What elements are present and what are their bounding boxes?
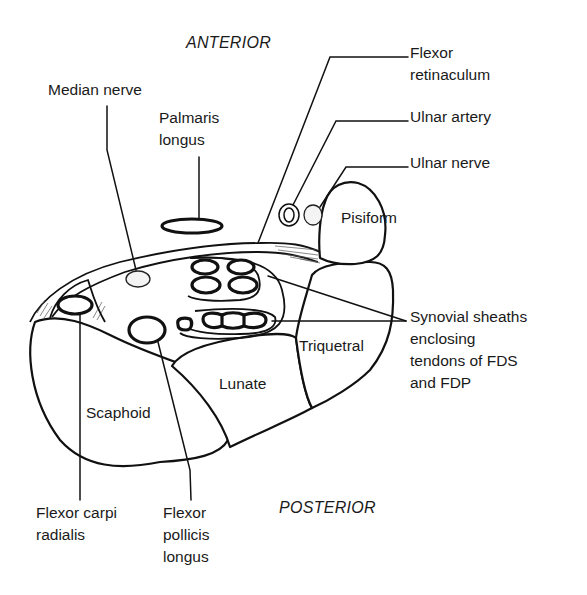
leader-median-nerve: [107, 106, 136, 270]
posterior-label: POSTERIOR: [279, 497, 376, 519]
fdp-tendons: [203, 313, 266, 329]
ulnar-nerve-shape: [304, 205, 322, 225]
median-nerve-label: Median nerve: [48, 79, 142, 101]
flexor-carpi-radialis-label: Flexor carpi radialis: [36, 502, 117, 546]
scaphoid-label: Scaphoid: [86, 402, 151, 424]
flexor-pollicis-longus-label: Flexor pollicis longus: [163, 502, 210, 568]
ulnar-nerve-label: Ulnar nerve: [410, 152, 490, 174]
flexor-retinaculum-label: Flexor retinaculum: [410, 42, 490, 86]
median-nerve-shape: [126, 271, 150, 287]
triquetral-label: Triquetral: [299, 335, 364, 357]
ulnar-artery-lumen: [284, 208, 294, 222]
pisiform-label: Pisiform: [341, 207, 397, 229]
flexor-carpi-radialis-tendon: [58, 296, 92, 314]
synovial-sheaths-label: Synovial sheaths enclosing tendons of FD…: [410, 306, 527, 394]
palmaris-longus-tendon: [162, 219, 222, 233]
lunate-label: Lunate: [219, 373, 266, 395]
fds-tendon-1: [192, 260, 218, 274]
flexor-pollicis-longus-tendon: [129, 317, 165, 343]
palmaris-longus-label: Palmaris longus: [159, 107, 219, 151]
anterior-label: ANTERIOR: [186, 32, 271, 54]
fdp-index-tendon: [178, 318, 192, 330]
fds-tendon-2: [228, 260, 254, 274]
fds-tendon-4: [229, 277, 257, 293]
ulnar-artery-label: Ulnar artery: [410, 106, 491, 128]
fds-tendon-3: [192, 277, 220, 293]
